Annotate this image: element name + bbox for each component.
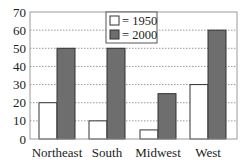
x-category-label: Northeast	[32, 145, 83, 160]
y-tick-label: 70	[13, 5, 26, 20]
bar-south-1950	[89, 121, 107, 139]
x-axis-labels: NortheastSouthMidwestWest	[32, 145, 221, 160]
legend-swatch-1950	[110, 16, 119, 25]
bar-west-1950	[190, 85, 208, 139]
x-category-label: South	[92, 145, 123, 160]
legend: = 1950 = 2000	[106, 12, 157, 43]
y-tick-label: 30	[13, 77, 26, 92]
bar-west-2000	[208, 30, 226, 139]
bar-northeast-1950	[39, 103, 57, 139]
bar-south-2000	[107, 48, 125, 139]
bar-midwest-2000	[158, 94, 176, 139]
legend-label-1950: = 1950	[122, 14, 157, 28]
y-axis-ticks: 010203040506070	[13, 5, 26, 147]
y-tick-label: 50	[13, 41, 26, 56]
bar-chart: 010203040506070 NortheastSouthMidwestWes…	[0, 0, 250, 161]
x-category-label: West	[195, 145, 221, 160]
y-tick-label: 60	[13, 23, 26, 38]
bar-northeast-2000	[57, 48, 75, 139]
legend-label-2000: = 2000	[122, 28, 157, 42]
y-tick-label: 40	[13, 59, 26, 74]
y-tick-label: 0	[20, 132, 27, 147]
x-category-label: Midwest	[135, 145, 181, 160]
y-tick-label: 20	[13, 95, 26, 110]
y-tick-label: 10	[13, 113, 26, 128]
bar-midwest-1950	[140, 130, 158, 139]
legend-swatch-2000	[110, 30, 119, 39]
